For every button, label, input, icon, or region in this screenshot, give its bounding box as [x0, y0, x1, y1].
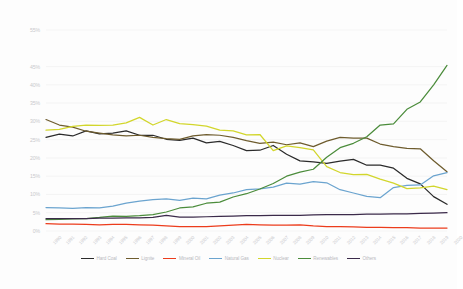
y-axis-tick-label: 45%: [22, 64, 40, 70]
legend-label: Renewables: [313, 256, 338, 261]
series-line-renewables: [46, 65, 447, 219]
y-axis-tick-label: 0%: [22, 228, 40, 234]
y-axis-tick-label: 30%: [22, 118, 40, 124]
legend-swatch-icon: [347, 258, 360, 260]
y-axis-tick-label: 15%: [22, 173, 40, 179]
legend-item[interactable]: Nuclear: [258, 256, 289, 261]
legend-label: Natural Gas: [225, 256, 249, 261]
y-axis-tick-label: 20%: [22, 155, 40, 161]
legend-swatch-icon: [209, 258, 222, 260]
legend-item[interactable]: Hard Coal: [81, 256, 117, 261]
legend-swatch-icon: [81, 258, 94, 260]
legend-item[interactable]: Others: [347, 256, 376, 261]
legend-swatch-icon: [163, 258, 176, 260]
y-axis-tick-label: 55%: [22, 27, 40, 33]
legend-swatch-icon: [298, 258, 311, 260]
y-axis-tick-label: 40%: [22, 82, 40, 88]
series-line-mineral-oil: [46, 224, 447, 228]
legend-item[interactable]: Lignite: [126, 256, 155, 261]
legend-label: Hard Coal: [96, 256, 116, 261]
series-line-nuclear: [46, 117, 447, 189]
legend-label: Lignite: [141, 256, 154, 261]
legend-item[interactable]: Natural Gas: [209, 256, 248, 261]
legend-label: Mineral Oil: [179, 256, 200, 261]
y-axis-tick-label: 5%: [22, 210, 40, 216]
legend-label: Nuclear: [273, 256, 288, 261]
y-axis-tick-label: 25%: [22, 137, 40, 143]
series-line-lignite: [46, 120, 447, 172]
legend-label: Others: [363, 256, 377, 261]
legend-item[interactable]: Renewables: [298, 256, 338, 261]
y-axis-tick-label: 10%: [22, 191, 40, 197]
legend-swatch-icon: [126, 258, 139, 260]
series-line-natural-gas: [46, 173, 447, 209]
chart-legend: Hard CoalLigniteMineral OilNatural GasNu…: [0, 256, 457, 261]
series-line-others: [46, 213, 447, 219]
legend-swatch-icon: [258, 258, 271, 260]
y-axis-tick-label: 35%: [22, 100, 40, 106]
legend-item[interactable]: Mineral Oil: [163, 256, 200, 261]
